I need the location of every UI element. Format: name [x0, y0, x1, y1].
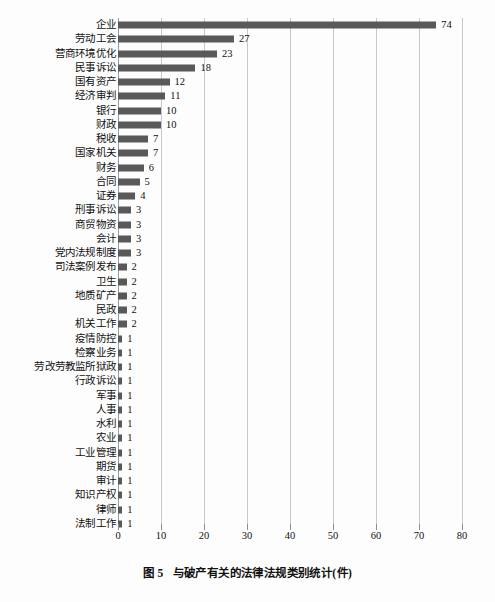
- bar-row: 地质矿产2: [0, 289, 495, 303]
- figure-caption-text: 与破产有关的法律法规类别统计(件): [173, 567, 352, 579]
- bar-row: 审计1: [0, 474, 495, 488]
- bar-value-label: 1: [127, 333, 132, 344]
- category-label: 卫生: [96, 276, 116, 287]
- x-axis: 01020304050607080: [0, 530, 495, 552]
- category-label: 审计: [96, 476, 116, 487]
- bar-value-label: 10: [166, 105, 177, 116]
- category-label: 检察业务: [75, 348, 116, 359]
- bar: [118, 264, 127, 271]
- bar-rows: 企业74劳动工会27营商环境优化23民事诉讼18国有资产12经济审判11银行10…: [0, 18, 495, 531]
- bar: [118, 321, 127, 328]
- category-label: 刑事诉讼: [75, 205, 116, 216]
- bar-value-label: 3: [136, 234, 141, 245]
- bar: [118, 107, 161, 114]
- axis-tick-label: 10: [156, 530, 167, 541]
- bar-row: 检察业务1: [0, 346, 495, 360]
- bar: [118, 207, 131, 214]
- bar-row: 工业管理1: [0, 446, 495, 460]
- bar-value-label: 18: [200, 63, 211, 74]
- bar-row: 民事诉讼18: [0, 61, 495, 75]
- category-label: 营商环境优化: [55, 48, 116, 59]
- axis-tick-label: 70: [414, 530, 425, 541]
- category-label: 税收: [96, 134, 116, 145]
- figure-caption: 图 5与破产有关的法律法规类别统计(件): [0, 564, 495, 580]
- category-label: 人事: [96, 405, 116, 416]
- category-label: 司法案例发布: [55, 262, 116, 273]
- bar-row: 经济审判11: [0, 89, 495, 103]
- bar-row: 党内法规制度3: [0, 246, 495, 260]
- bar: [118, 50, 217, 57]
- category-label: 财政: [96, 120, 116, 131]
- bar-row: 军事1: [0, 389, 495, 403]
- bar-row: 行政诉讼1: [0, 374, 495, 388]
- bar: [118, 364, 122, 371]
- bar-value-label: 2: [132, 291, 137, 302]
- bar-row: 银行10: [0, 104, 495, 118]
- bar: [118, 392, 122, 399]
- bar-value-label: 1: [127, 419, 132, 430]
- category-label: 商贸物资: [75, 219, 116, 230]
- bar-row: 民政2: [0, 303, 495, 317]
- bar-value-label: 1: [127, 390, 132, 401]
- bar-row: 律师1: [0, 503, 495, 517]
- bar-value-label: 7: [153, 148, 158, 159]
- category-label: 行政诉讼: [75, 376, 116, 387]
- bar-row: 司法案例发布2: [0, 260, 495, 274]
- bar-row: 劳动工会27: [0, 32, 495, 46]
- bar: [118, 121, 161, 128]
- bar-row: 机关工作2: [0, 317, 495, 331]
- bar-value-label: 5: [145, 177, 150, 188]
- category-label: 国有资产: [75, 77, 116, 88]
- bar-row: 知识产权1: [0, 488, 495, 502]
- category-label: 党内法规制度: [55, 248, 116, 259]
- bar-row: 合同5: [0, 175, 495, 189]
- bar: [118, 449, 122, 456]
- bar-value-label: 3: [136, 219, 141, 230]
- category-label: 工业管理: [75, 447, 116, 458]
- bar: [118, 221, 131, 228]
- bar: [118, 463, 122, 470]
- bar-row: 商贸物资3: [0, 218, 495, 232]
- bar: [118, 406, 122, 413]
- bar-value-label: 1: [127, 519, 132, 530]
- category-label: 企业: [96, 20, 116, 31]
- category-label: 证券: [96, 191, 116, 202]
- category-label: 机关工作: [75, 319, 116, 330]
- bar: [118, 307, 127, 314]
- bar-row: 疫情防控1: [0, 332, 495, 346]
- category-label: 民事诉讼: [75, 63, 116, 74]
- bar: [118, 64, 195, 71]
- bar-value-label: 1: [127, 490, 132, 501]
- axis-tick-label: 40: [285, 530, 296, 541]
- bar-value-label: 12: [175, 77, 186, 88]
- bar-row: 水利1: [0, 417, 495, 431]
- category-label: 会计: [96, 234, 116, 245]
- bar: [118, 435, 122, 442]
- bar-value-label: 2: [132, 276, 137, 287]
- bar: [118, 292, 127, 299]
- bar: [118, 164, 144, 171]
- bar-value-label: 1: [127, 447, 132, 458]
- axis-tick-label: 60: [371, 530, 382, 541]
- category-label: 军事: [96, 390, 116, 401]
- category-label: 银行: [96, 105, 116, 116]
- category-label: 财务: [96, 162, 116, 173]
- axis-tick-label: 0: [115, 530, 120, 541]
- bar-row: 刑事诉讼3: [0, 203, 495, 217]
- category-label: 劳改劳教监所狱政: [34, 362, 116, 373]
- bar-row: 卫生2: [0, 275, 495, 289]
- bar: [118, 22, 436, 29]
- bar-row: 财政10: [0, 118, 495, 132]
- bar: [118, 478, 122, 485]
- bar-row: 期货1: [0, 460, 495, 474]
- bar: [118, 150, 148, 157]
- bar-value-label: 2: [132, 319, 137, 330]
- bar: [118, 250, 131, 257]
- bar-value-label: 1: [127, 362, 132, 373]
- category-label: 民政: [96, 305, 116, 316]
- bar-row: 国家机关7: [0, 146, 495, 160]
- bar: [118, 93, 165, 100]
- figure-number: 图 5: [143, 567, 164, 579]
- bar: [118, 178, 140, 185]
- bar-value-label: 7: [153, 134, 158, 145]
